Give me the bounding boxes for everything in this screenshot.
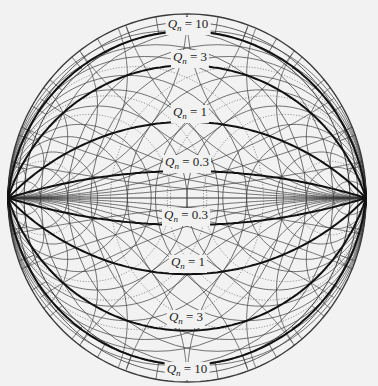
- q-label-lower-1: Qn = 1: [169, 255, 207, 273]
- q-label-upper-10: Qn = 10: [166, 17, 211, 35]
- q-label-lower-10: Qn = 10: [165, 362, 210, 380]
- q-label-upper-0.3: Qn = 0.3: [163, 155, 211, 173]
- q-label-lower-3: Qn = 3: [167, 310, 205, 328]
- q-label-upper-3: Qn = 3: [171, 50, 209, 68]
- q-label-lower-0.3: Qn = 0.3: [162, 208, 210, 226]
- q-label-upper-1: Qn = 1: [171, 105, 209, 123]
